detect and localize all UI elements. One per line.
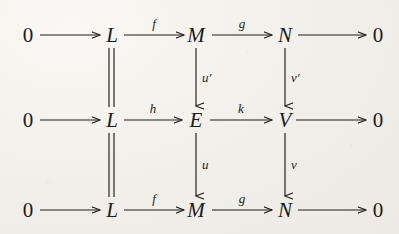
node-r1-zero-left: 0	[23, 25, 34, 46]
node-r1-N: N	[278, 25, 292, 46]
node-r3-zero-right: 0	[373, 200, 384, 221]
commutative-diagram: 0 L M N 0 0 L E V 0 0 L M N 0 f g h k f …	[0, 0, 399, 234]
label-arrow-k-middle: k	[238, 102, 244, 115]
label-arrow-v-prime: v′	[291, 71, 300, 84]
node-r3-N: N	[278, 200, 292, 221]
label-arrow-h-middle: h	[150, 102, 157, 115]
node-r2-E: E	[190, 110, 203, 131]
label-arrow-u: u	[202, 158, 209, 171]
label-arrow-v: v	[291, 158, 297, 171]
node-r2-L: L	[106, 110, 118, 131]
node-r1-L: L	[106, 25, 118, 46]
node-r3-M: M	[187, 200, 205, 221]
label-arrow-f-top: f	[152, 17, 156, 30]
node-r2-zero-right: 0	[373, 110, 384, 131]
node-r2-zero-left: 0	[23, 110, 34, 131]
node-r3-L: L	[106, 200, 118, 221]
label-arrow-f-bottom: f	[152, 192, 156, 205]
equals-L-middle-bottom	[109, 133, 114, 197]
equals-L-top-middle	[109, 48, 114, 107]
node-r2-V: V	[279, 110, 292, 131]
label-arrow-g-top: g	[239, 17, 246, 30]
label-arrow-g-bottom: g	[239, 192, 246, 205]
node-r1-zero-right: 0	[373, 25, 384, 46]
label-arrow-u-prime: u′	[202, 71, 211, 84]
node-r1-M: M	[187, 25, 205, 46]
node-r3-zero-left: 0	[23, 200, 34, 221]
